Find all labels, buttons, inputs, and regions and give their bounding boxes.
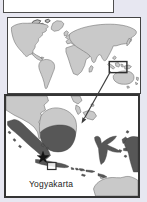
new-zealand (135, 77, 138, 85)
greenland (51, 21, 64, 32)
yogyakarta-label: Yogyakarta (29, 179, 73, 189)
indonesia-islands (8, 119, 139, 177)
sulawesi (95, 136, 121, 165)
central-america (32, 52, 44, 60)
lesser-sunda-islands (71, 167, 107, 177)
madagascar (89, 66, 93, 73)
philippines (71, 96, 97, 120)
cropped-top-box (3, 0, 114, 13)
australia-inset (94, 176, 139, 196)
british-isles (64, 31, 69, 36)
papua (124, 136, 138, 172)
south-america (39, 59, 55, 88)
yogyakarta-highlight-box (48, 162, 57, 169)
philippines-small (113, 56, 117, 60)
world-map-svg (8, 18, 140, 93)
north-america (11, 23, 48, 56)
world-continents (11, 19, 138, 88)
indonesia-small-islands (108, 63, 132, 70)
australia-world (113, 71, 134, 88)
world-map-panel (7, 17, 141, 94)
locator-map-figure: Yogyakarta (0, 0, 147, 202)
